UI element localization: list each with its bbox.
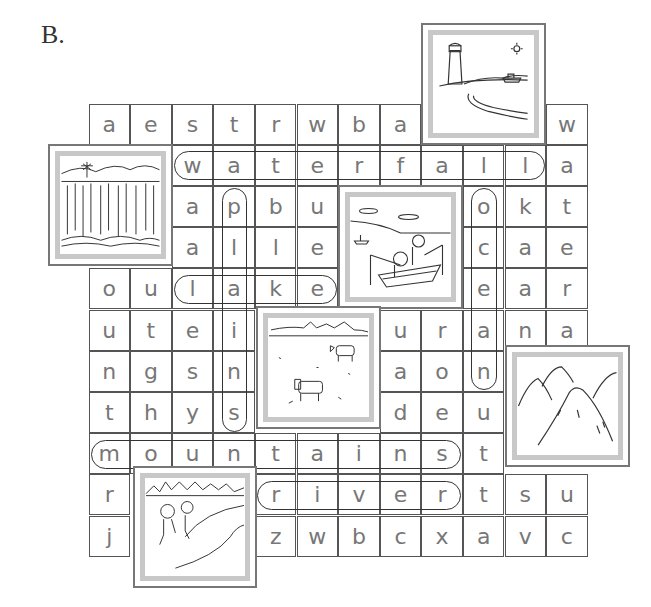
- grid-cell[interactable]: e: [297, 268, 339, 309]
- grid-cell[interactable]: r: [255, 104, 297, 145]
- grid-cell[interactable]: f: [380, 145, 422, 186]
- lighthouse-icon: [433, 35, 534, 133]
- grid-cell[interactable]: u: [463, 392, 505, 433]
- grid-cell[interactable]: a: [89, 104, 131, 145]
- grid-cell[interactable]: o: [89, 268, 131, 309]
- grid-cell[interactable]: t: [89, 392, 131, 433]
- lighthouse-sea-picture: [421, 23, 546, 145]
- grid-cell[interactable]: k: [255, 268, 297, 309]
- grid-cell[interactable]: a: [380, 104, 422, 145]
- grid-cell[interactable]: l: [213, 227, 255, 268]
- grid-cell[interactable]: a: [546, 145, 588, 186]
- grid-cell[interactable]: v: [338, 474, 380, 515]
- grid-cell[interactable]: e: [380, 474, 422, 515]
- grid-cell[interactable]: r: [421, 474, 463, 515]
- grid-cell[interactable]: e: [297, 227, 339, 268]
- grid-cell[interactable]: u: [130, 268, 172, 309]
- grid-cell[interactable]: c: [380, 516, 422, 557]
- grid-cell[interactable]: n: [463, 351, 505, 392]
- grid-cell[interactable]: i: [213, 310, 255, 351]
- grid-cell[interactable]: y: [172, 392, 214, 433]
- grid-cell[interactable]: m: [89, 433, 131, 474]
- grid-cell[interactable]: b: [338, 516, 380, 557]
- grid-cell[interactable]: u: [380, 310, 422, 351]
- grid-cell[interactable]: e: [130, 104, 172, 145]
- grid-cell[interactable]: a: [380, 351, 422, 392]
- grid-cell[interactable]: k: [505, 186, 547, 227]
- grid-cell[interactable]: l: [463, 145, 505, 186]
- grid-cell[interactable]: s: [421, 433, 463, 474]
- grid-cell[interactable]: t: [213, 104, 255, 145]
- grid-cell[interactable]: a: [172, 186, 214, 227]
- grid-cell[interactable]: g: [130, 351, 172, 392]
- grid-cell[interactable]: i: [297, 474, 339, 515]
- grid-cell[interactable]: d: [380, 392, 422, 433]
- section-label: B.: [41, 20, 65, 50]
- cows-icon: [268, 318, 369, 417]
- grid-cell[interactable]: w: [297, 516, 339, 557]
- grid-cell[interactable]: t: [463, 433, 505, 474]
- grid-cell[interactable]: v: [505, 516, 547, 557]
- grid-cell[interactable]: e: [297, 145, 339, 186]
- grid-cell[interactable]: a: [463, 516, 505, 557]
- waterfall-picture: [48, 144, 173, 266]
- grid-cell[interactable]: w: [546, 104, 588, 145]
- grid-cell[interactable]: l: [172, 268, 214, 309]
- grid-cell[interactable]: c: [463, 227, 505, 268]
- grid-cell[interactable]: z: [255, 516, 297, 557]
- river-children-icon: [145, 478, 245, 576]
- fishing-boat-icon: [350, 197, 451, 297]
- grid-cell[interactable]: c: [546, 516, 588, 557]
- grid-cell[interactable]: e: [172, 310, 214, 351]
- mountains-icon: [517, 357, 618, 455]
- grid-cell[interactable]: t: [255, 433, 297, 474]
- grid-cell[interactable]: s: [172, 104, 214, 145]
- grid-cell[interactable]: t: [255, 145, 297, 186]
- grid-cell[interactable]: t: [463, 474, 505, 515]
- grid-cell[interactable]: x: [421, 516, 463, 557]
- grid-cell[interactable]: r: [421, 310, 463, 351]
- grid-cell[interactable]: e: [421, 392, 463, 433]
- grid-cell[interactable]: b: [255, 186, 297, 227]
- grid-cell[interactable]: o: [463, 186, 505, 227]
- grid-cell[interactable]: l: [255, 227, 297, 268]
- grid-cell[interactable]: n: [380, 433, 422, 474]
- grid-cell[interactable]: e: [463, 268, 505, 309]
- cows-plains-picture: [256, 306, 381, 429]
- grid-cell[interactable]: h: [130, 392, 172, 433]
- grid-cell[interactable]: s: [505, 474, 547, 515]
- grid-cell[interactable]: o: [421, 351, 463, 392]
- grid-cell[interactable]: n: [213, 351, 255, 392]
- grid-cell[interactable]: a: [505, 227, 547, 268]
- waterfall-icon: [60, 156, 161, 254]
- grid-cell[interactable]: s: [213, 392, 255, 433]
- grid-cell[interactable]: a: [213, 268, 255, 309]
- grid-cell[interactable]: t: [130, 310, 172, 351]
- grid-cell[interactable]: t: [546, 186, 588, 227]
- grid-cell[interactable]: w: [172, 145, 214, 186]
- grid-cell[interactable]: u: [546, 474, 588, 515]
- grid-cell[interactable]: a: [213, 145, 255, 186]
- grid-cell[interactable]: a: [297, 433, 339, 474]
- grid-cell[interactable]: a: [421, 145, 463, 186]
- grid-cell[interactable]: a: [505, 268, 547, 309]
- grid-cell[interactable]: i: [338, 433, 380, 474]
- grid-cell[interactable]: p: [213, 186, 255, 227]
- grid-cell[interactable]: n: [89, 351, 131, 392]
- grid-cell[interactable]: r: [546, 268, 588, 309]
- grid-cell[interactable]: r: [338, 145, 380, 186]
- mountains-picture: [505, 345, 630, 467]
- grid-cell[interactable]: a: [172, 227, 214, 268]
- grid-cell[interactable]: l: [505, 145, 547, 186]
- fishing-boat-picture: [338, 185, 463, 309]
- grid-cell[interactable]: u: [89, 310, 131, 351]
- grid-cell[interactable]: r: [255, 474, 297, 515]
- grid-cell[interactable]: j: [89, 516, 131, 557]
- grid-cell[interactable]: b: [338, 104, 380, 145]
- grid-cell[interactable]: w: [297, 104, 339, 145]
- grid-cell[interactable]: a: [463, 310, 505, 351]
- grid-cell[interactable]: u: [297, 186, 339, 227]
- grid-cell[interactable]: e: [546, 227, 588, 268]
- grid-cell[interactable]: s: [172, 351, 214, 392]
- grid-cell[interactable]: r: [89, 474, 131, 515]
